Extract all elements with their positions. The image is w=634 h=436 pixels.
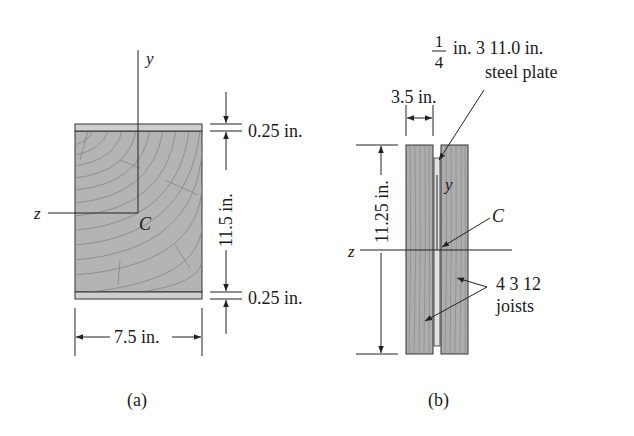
joist-label-line1: 4 3 12: [496, 274, 541, 294]
dim-width-label-a: 7.5 in.: [114, 327, 160, 347]
z-axis-label-a: z: [33, 204, 41, 223]
dim-joist-width: [406, 105, 433, 136]
bottom-steel-plate: [75, 292, 202, 299]
dim-height-label-a: 11.5 in.: [216, 193, 236, 247]
plate-fraction-numerator: 1: [435, 32, 444, 51]
z-axis-label-b: z: [347, 242, 355, 261]
joist-label-line2: joists: [495, 296, 534, 316]
plate-label-line2: steel plate: [485, 62, 557, 82]
figure-a: y z C 0.25 in. 0.25 in. 11.5 in. 7.5 in.…: [33, 49, 303, 411]
caption-a: (a): [127, 390, 147, 411]
dim-top-plate-label: 0.25 in.: [248, 121, 303, 141]
plate-fraction-denominator: 4: [435, 53, 444, 72]
dim-joist-width-label: 3.5 in.: [391, 87, 437, 107]
centroid-label-b: C: [492, 206, 505, 226]
centroid-label-a: C: [139, 214, 152, 234]
plate-label-line1: in. 3 11.0 in.: [453, 38, 543, 58]
y-axis-label-a: y: [144, 49, 154, 68]
caption-b: (b): [428, 390, 449, 411]
dim-bottom-plate-label: 0.25 in.: [248, 288, 303, 308]
diagram-canvas: y z C 0.25 in. 0.25 in. 11.5 in. 7.5 in.…: [0, 0, 634, 436]
y-axis-label-b: y: [443, 175, 453, 194]
figure-b: y z C 1 4 in. 3 11.0 in. steel plate 3.5…: [347, 32, 557, 411]
dim-height-label-b: 11.25 in.: [372, 180, 392, 243]
